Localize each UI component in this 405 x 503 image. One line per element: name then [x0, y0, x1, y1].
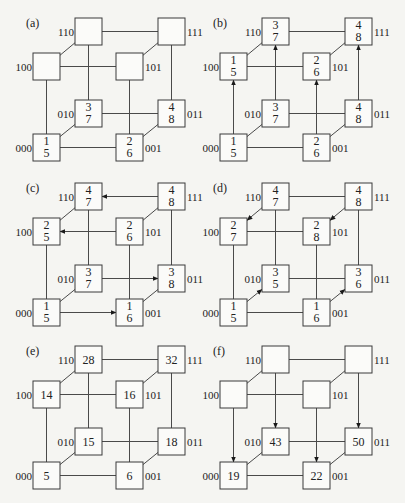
panel-label: (e)	[26, 344, 39, 358]
cube-edges	[234, 197, 359, 313]
node-100: 15100	[203, 53, 248, 80]
cube-edges	[47, 197, 172, 313]
node-label-111: 111	[374, 26, 390, 38]
node-label-100: 100	[16, 61, 33, 73]
node-100: 27100	[203, 218, 248, 245]
node-label-110: 110	[245, 26, 262, 38]
node-value: 8	[356, 30, 362, 44]
node-value: 22	[311, 469, 323, 483]
node-101: 16101	[116, 381, 162, 408]
node-111: 48111	[345, 183, 390, 210]
cube-edges	[234, 360, 359, 476]
node-label-101: 101	[145, 61, 162, 73]
panel-label: (a)	[26, 16, 39, 30]
cube-edges	[234, 32, 359, 148]
node-box	[220, 381, 247, 408]
node-001: 26001	[303, 134, 349, 161]
panel-e: 14100161012811032111150101801150006001(e…	[16, 344, 204, 489]
node-110: 47110	[58, 183, 102, 210]
node-label-110: 110	[245, 354, 262, 366]
node-001: 16001	[303, 299, 349, 326]
node-label-100: 100	[203, 226, 220, 238]
node-011: 48011	[345, 100, 390, 127]
node-label-100: 100	[203, 61, 220, 73]
node-111: 48111	[345, 18, 390, 45]
node-value: 8	[314, 230, 320, 244]
node-010: 37010	[58, 265, 103, 292]
node-101: 26101	[303, 53, 349, 80]
node-value: 7	[273, 195, 279, 209]
node-111: 111	[158, 18, 203, 45]
cube-edges	[47, 360, 172, 476]
node-label-010: 010	[58, 108, 75, 120]
node-011: 48011	[158, 100, 203, 127]
node-label-111: 111	[374, 354, 390, 366]
node-value: 14	[41, 388, 53, 402]
node-111: 32111	[158, 346, 203, 373]
node-value: 5	[44, 469, 50, 483]
node-011: 18011	[158, 428, 203, 455]
node-001: 6001	[116, 462, 162, 489]
node-label-101: 101	[332, 389, 349, 401]
node-value: 6	[127, 146, 133, 160]
node-000: 5000	[16, 462, 61, 489]
node-label-100: 100	[16, 389, 33, 401]
panel-label: (f)	[213, 344, 225, 358]
node-value: 8	[169, 277, 175, 291]
node-value: 7	[231, 230, 237, 244]
node-label-110: 110	[58, 191, 75, 203]
node-label-111: 111	[187, 354, 203, 366]
node-label-111: 111	[374, 191, 390, 203]
node-111: 48111	[158, 183, 203, 210]
node-value: 28	[83, 353, 95, 367]
node-box	[158, 18, 185, 45]
node-110: 28110	[58, 346, 102, 373]
node-110: 110	[58, 18, 102, 45]
node-boxes: 10010111011137010480111500026001	[16, 18, 204, 161]
node-label-011: 011	[374, 436, 390, 448]
node-value: 6	[127, 311, 133, 325]
panel-label: (b)	[213, 16, 227, 30]
panel-label: (c)	[26, 181, 39, 195]
node-label-110: 110	[58, 26, 75, 38]
node-010: 35010	[245, 265, 290, 292]
node-box	[262, 346, 289, 373]
node-value: 6	[356, 277, 362, 291]
node-100: 100	[203, 381, 248, 408]
node-label-010: 010	[58, 273, 75, 285]
node-001: 22001	[303, 462, 349, 489]
node-label-011: 011	[187, 273, 203, 285]
node-100: 14100	[16, 381, 61, 408]
node-010: 43010	[245, 428, 290, 455]
data-transfer-arrows	[234, 197, 359, 313]
node-011: 36011	[345, 265, 390, 292]
node-value: 19	[228, 469, 240, 483]
node-101: 101	[116, 53, 162, 80]
node-label-100: 100	[16, 226, 33, 238]
node-value: 15	[83, 435, 95, 449]
node-value: 7	[86, 112, 92, 126]
node-label-110: 110	[245, 191, 262, 203]
node-box	[345, 346, 372, 373]
node-label-001: 001	[332, 470, 349, 482]
node-boxes: 14100161012811032111150101801150006001	[16, 346, 204, 489]
node-000: 15000	[203, 134, 248, 161]
node-value: 5	[231, 146, 237, 160]
node-value: 6	[127, 469, 133, 483]
node-100: 25100	[16, 218, 61, 245]
node-value: 7	[273, 112, 279, 126]
node-001: 16001	[116, 299, 162, 326]
node-boxes: 2510047110380111600115000370102610148111	[16, 183, 204, 326]
node-label-000: 000	[203, 142, 220, 154]
node-000: 15000	[16, 134, 61, 161]
node-label-111: 111	[187, 191, 203, 203]
node-boxes: 2710028101350103601115000160014711048111	[203, 183, 391, 326]
node-000: 15000	[16, 299, 61, 326]
panel-label: (d)	[213, 181, 227, 195]
node-label-000: 000	[16, 470, 33, 482]
node-label-000: 000	[16, 142, 33, 154]
node-label-001: 001	[145, 142, 162, 154]
node-label-001: 001	[145, 470, 162, 482]
node-label-000: 000	[203, 470, 220, 482]
node-label-110: 110	[58, 354, 75, 366]
